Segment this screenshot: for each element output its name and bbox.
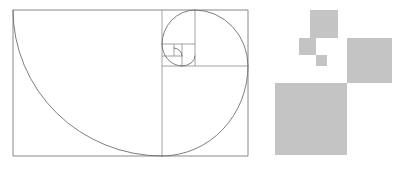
arc-1-largest xyxy=(13,10,162,156)
arc-5 xyxy=(162,44,182,66)
arc-6 xyxy=(182,56,195,66)
golden-rectangle-outline xyxy=(13,10,248,156)
square-medium xyxy=(347,38,392,83)
fibonacci-squares-group xyxy=(275,10,392,155)
figure-root xyxy=(0,0,401,170)
golden-rectangle-group xyxy=(13,10,248,156)
diagram-canvas xyxy=(0,0,401,170)
arc-4 xyxy=(162,10,195,44)
golden-spiral-group xyxy=(13,10,248,156)
fibonacci-subdivisions-group xyxy=(162,10,248,156)
square-smaller xyxy=(299,38,316,55)
arc-2 xyxy=(162,66,248,156)
arc-3 xyxy=(195,10,248,66)
square-small xyxy=(310,10,338,38)
square-tiny xyxy=(316,55,327,66)
arc-7-smallest xyxy=(174,48,182,56)
square-large xyxy=(275,83,347,155)
